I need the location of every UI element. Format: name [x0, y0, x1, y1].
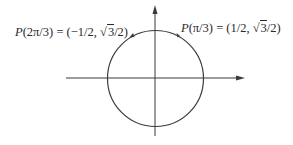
- point-arg: (2π/3): [23, 25, 54, 39]
- point-label-pi-3: P(π/3) = (1/2, √3/2): [181, 22, 281, 35]
- y-axis: [153, 5, 158, 136]
- point-tail: /2): [267, 21, 281, 35]
- point-arg: (π/3): [189, 21, 213, 35]
- point-eq: = (−1/2,: [53, 25, 100, 39]
- sqrt-symbol: √3: [100, 26, 114, 39]
- point-marker-2pi-3: [130, 33, 135, 38]
- y-axis-arrow-icon: [153, 5, 158, 14]
- sqrt-symbol: √3: [253, 22, 267, 35]
- point-eq: = (1/2,: [213, 21, 253, 35]
- point-tail: /2): [114, 25, 128, 39]
- point-func: P: [181, 21, 189, 35]
- point-func: P: [15, 25, 23, 39]
- point-label-2pi-3: P(2π/3) = (−1/2, √3/2): [15, 26, 128, 39]
- x-axis-arrow-icon: [236, 76, 245, 81]
